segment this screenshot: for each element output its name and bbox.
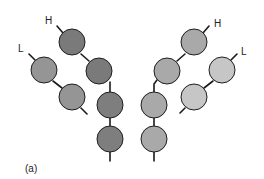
left-light-n-terminus (29, 54, 35, 60)
left-heavy-vh-domain (59, 29, 85, 55)
left-light-vl-domain (31, 57, 57, 83)
right-light-n-terminus (231, 54, 237, 60)
left-light-label: L (18, 43, 24, 54)
right-light-c-terminus (180, 108, 185, 113)
left-heavy-label: H (45, 15, 52, 26)
right-light-cl-domain (181, 84, 207, 110)
right-heavy-label: H (214, 18, 221, 29)
right-light-label: L (241, 46, 247, 57)
panel-label: (a) (25, 163, 37, 174)
right-light-vl-domain (209, 57, 235, 83)
left-heavy-linker-1 (81, 54, 89, 61)
right-heavy-ch2-domain (141, 92, 167, 118)
left-heavy-n-terminus (57, 26, 63, 33)
left-light-cl-domain (59, 84, 85, 110)
left-light-c-terminus (81, 108, 87, 114)
right-heavy-ch1-domain (154, 58, 180, 84)
left-heavy-ch3-domain (97, 126, 123, 152)
antibody-diagram: H L H L (a) (0, 0, 264, 179)
right-heavy-n-terminus (203, 26, 209, 33)
left-light-linker (53, 81, 62, 88)
left-heavy-ch2-domain (97, 92, 123, 118)
right-heavy-hinge (154, 80, 157, 93)
right-light-linker (204, 81, 213, 88)
right-heavy-vh-domain (181, 29, 207, 55)
left-arm: H L (18, 15, 123, 161)
right-heavy-ch3-domain (141, 126, 167, 152)
left-heavy-ch1-domain (86, 58, 112, 84)
right-heavy-linker-1 (177, 54, 185, 61)
right-arm: H L (141, 18, 247, 161)
